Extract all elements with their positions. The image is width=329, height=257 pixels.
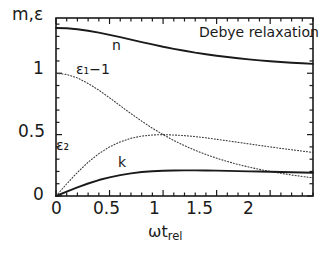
x-tick-label-2: 2 [243, 200, 254, 217]
y-tick-label-0-5: 0.5 [18, 123, 45, 140]
x-tick-label-0-5: 0.5 [93, 200, 120, 217]
y-tick-label-0: 0 [33, 186, 44, 203]
x-axis-label: ωtrel [148, 224, 182, 243]
x-tick-label-0: 0 [51, 200, 62, 217]
x-tick-label-1: 1 [149, 200, 160, 217]
x-tick-label-1-5: 1.5 [186, 200, 213, 217]
y-tick-label-1: 1 [33, 60, 44, 77]
curve-label-epsilon2: ε₂ [56, 138, 69, 152]
figure-root: m,ε 0 0.5 1 0 0.5 1 1.5 2 ωtrel Debye re… [0, 0, 329, 257]
chart-annotation-title: Debye relaxation [199, 25, 319, 39]
curve-label-n: n [112, 38, 121, 52]
curve-label-epsilon1: ε₁−1 [76, 62, 110, 76]
curve-label-k: k [118, 155, 126, 169]
y-axis-label: m,ε [12, 6, 43, 23]
x-axis-label-subscript: rel [168, 229, 183, 243]
x-axis-label-main: ωt [148, 222, 168, 241]
